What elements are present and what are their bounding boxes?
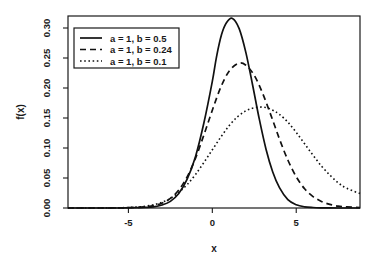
legend-label-2: a = 1, b = 0.1 [110, 56, 167, 67]
x-tick-label: -5 [124, 217, 133, 228]
y-axis-ticks: 0.000.050.100.150.200.250.30 [41, 19, 69, 218]
y-tick-label: 0.05 [41, 168, 52, 187]
y-tick-label: 0.20 [41, 79, 52, 98]
density-plot-figure: 0.000.050.100.150.200.250.30 -505 x f(x)… [0, 0, 372, 266]
y-axis-title: f(x) [15, 104, 26, 120]
y-tick-label: 0.15 [41, 108, 52, 127]
x-tick-label: 0 [210, 217, 215, 228]
y-tick-label: 0.25 [41, 48, 52, 67]
x-axis-ticks: -505 [124, 208, 299, 228]
legend-label-0: a = 1, b = 0.5 [110, 33, 167, 44]
legend-items: a = 1, b = 0.5a = 1, b = 0.24a = 1, b = … [80, 33, 173, 67]
curve-series-1 [68, 63, 360, 208]
y-tick-label: 0.30 [41, 19, 52, 38]
legend: a = 1, b = 0.5a = 1, b = 0.24a = 1, b = … [74, 28, 179, 68]
curve-series-2 [68, 107, 360, 208]
y-tick-label: 0.00 [41, 199, 52, 218]
legend-label-1: a = 1, b = 0.24 [110, 44, 173, 55]
x-tick-label: 5 [294, 217, 300, 228]
chart-container: 0.000.050.100.150.200.250.30 -505 x f(x)… [0, 0, 372, 266]
y-tick-label: 0.10 [41, 139, 52, 158]
x-axis-title: x [211, 243, 217, 254]
